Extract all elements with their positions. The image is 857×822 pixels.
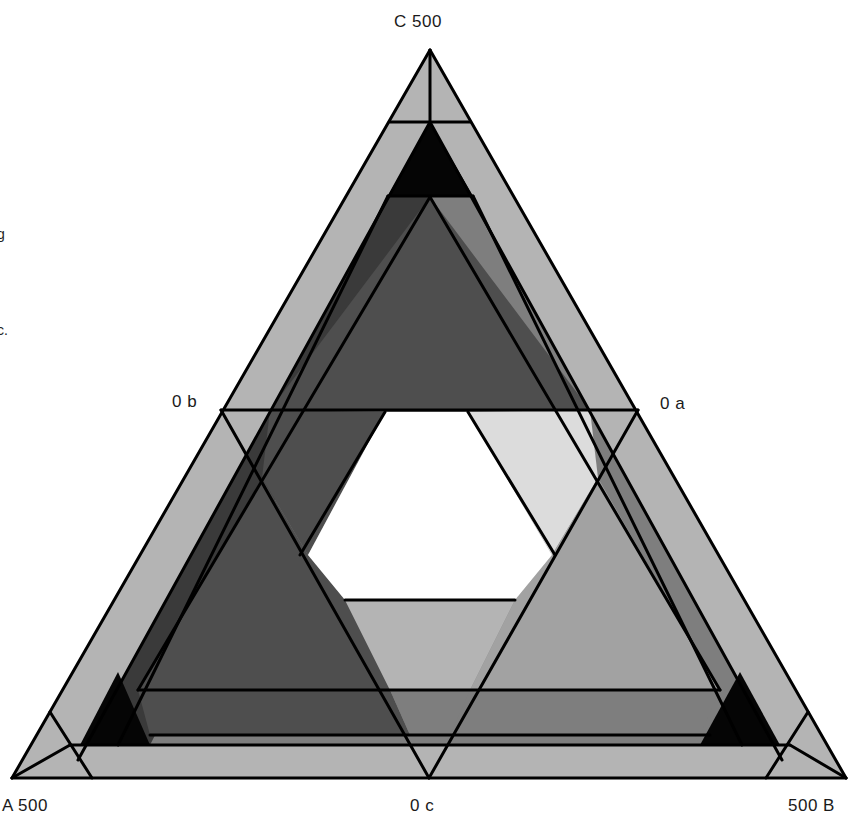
ternary-diagram (0, 0, 857, 822)
vertex-label-c: C 500 (394, 12, 442, 32)
region-layer (12, 50, 846, 778)
cropped-text-fragment: c. (0, 322, 8, 338)
bottom-dark-band-left (138, 690, 410, 735)
bottom-light-band (70, 745, 790, 772)
vertex-label-b: 500 B (788, 796, 835, 816)
vertex-label-a: A 500 (2, 796, 48, 816)
midpoint-label-a: 0 a (660, 394, 685, 414)
midpoint-label-c: 0 c (410, 796, 434, 816)
bottom-mid-band-right (450, 690, 720, 735)
midpoint-label-b: 0 b (172, 392, 197, 412)
cropped-text-fragment: g (0, 226, 5, 242)
